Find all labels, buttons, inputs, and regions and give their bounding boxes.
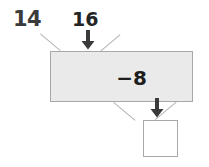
input-value-label: 16 — [72, 10, 98, 29]
answer-input-box[interactable] — [143, 120, 178, 157]
machine-body: −8 — [50, 51, 193, 102]
funnel-line-bottom-left — [113, 102, 135, 121]
question-number: 14 — [13, 9, 41, 30]
machine-operation-label: −8 — [51, 52, 194, 103]
function-machine-problem: 14 16 −8 — [0, 0, 209, 167]
funnel-line-top-right — [100, 34, 121, 51]
arrow-down-icon — [81, 30, 95, 50]
funnel-line-top-left — [40, 34, 61, 51]
arrow-down-icon — [150, 98, 164, 118]
